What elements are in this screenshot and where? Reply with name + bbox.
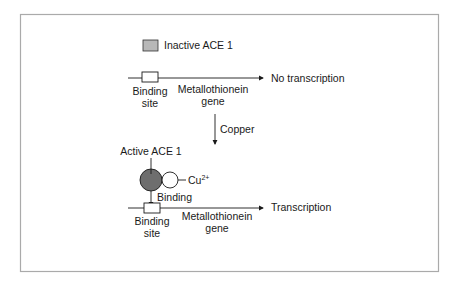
- top-gene-label-1: Metallothionein: [178, 83, 249, 95]
- legend-swatch-inactive: [143, 40, 158, 51]
- diagram: Inactive ACE 1 No transcription Binding …: [0, 0, 456, 288]
- copper-ion: [162, 172, 178, 188]
- copper-ion-label: Cu2+: [188, 174, 209, 186]
- top-binding-site-box: [142, 72, 158, 82]
- bottom-gene-label-2: gene: [205, 222, 229, 234]
- bottom-binding-site-label-2: site: [144, 227, 161, 239]
- frame: [21, 15, 439, 272]
- copper-label: Copper: [220, 123, 255, 135]
- top-binding-site-label-1: Binding: [132, 85, 167, 97]
- bottom-binding-site-label-1: Binding: [134, 215, 169, 227]
- bottom-gene-label-1: Metallothionein: [182, 210, 253, 222]
- bottom-binding-site-box: [144, 203, 160, 213]
- legend-label: Inactive ACE 1: [164, 39, 233, 51]
- top-outcome-label: No transcription: [271, 72, 345, 84]
- active-ace1-label: Active ACE 1: [120, 145, 181, 157]
- top-gene-label-2: gene: [201, 95, 225, 107]
- top-binding-site-label-2: site: [142, 97, 159, 109]
- binding-label: Binding: [157, 191, 192, 203]
- bottom-outcome-label: Transcription: [271, 201, 331, 213]
